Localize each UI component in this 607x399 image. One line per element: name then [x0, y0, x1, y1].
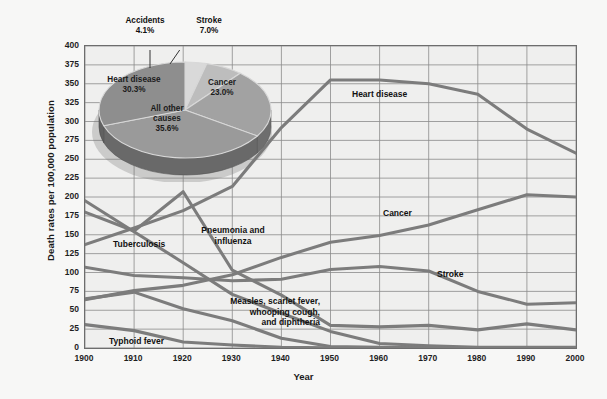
pie-callout-accidents-name: Accidents	[114, 16, 176, 26]
x-tick-1990: 1990	[504, 353, 548, 363]
series-label-cancer: Cancer	[383, 208, 412, 219]
x-tick-1910: 1910	[111, 353, 155, 363]
pie-label-heart-disease-pct: 30.3%	[88, 85, 180, 95]
y-tick-400: 400	[45, 40, 79, 50]
x-tick-1900: 1900	[62, 353, 106, 363]
y-tick-275: 275	[45, 134, 79, 144]
x-tick-1940: 1940	[258, 353, 302, 363]
y-tick-100: 100	[45, 267, 79, 277]
x-tick-1950: 1950	[308, 353, 352, 363]
pie-label-cancer-pct: 23.0%	[196, 88, 248, 98]
y-tick-375: 375	[45, 59, 79, 69]
pie-callout-accidents-pct: 4.1%	[114, 26, 176, 36]
y-tick-75: 75	[45, 285, 79, 295]
pie-chart: Accidents 4.1% Stroke 7.0% Heart disease…	[92, 50, 278, 182]
pie-callout-stroke-name: Stroke	[182, 16, 236, 26]
x-tick-1970: 1970	[406, 353, 450, 363]
x-tick-1920: 1920	[160, 353, 204, 363]
pie-label-cancer-name: Cancer	[196, 78, 248, 88]
y-tick-225: 225	[45, 172, 79, 182]
pie-label-all-other-causes-name: All other causes	[136, 104, 198, 124]
y-tick-50: 50	[45, 304, 79, 314]
x-tick-2000: 2000	[553, 353, 597, 363]
x-tick-1980: 1980	[455, 353, 499, 363]
x-tick-1930: 1930	[209, 353, 253, 363]
y-tick-150: 150	[45, 229, 79, 239]
pie-callout-stroke-pct: 7.0%	[182, 26, 236, 36]
figure-root: Death rates per 100,000 population 40037…	[0, 0, 607, 399]
y-tick-0: 0	[45, 342, 79, 352]
pie-label-all-other-causes-pct: 35.6%	[136, 124, 198, 134]
x-axis-title: Year	[0, 371, 607, 382]
y-tick-200: 200	[45, 191, 79, 201]
x-tick-1960: 1960	[357, 353, 401, 363]
series-label-typhoid-fever: Typhoid fever	[109, 336, 164, 347]
y-tick-325: 325	[45, 97, 79, 107]
y-tick-25: 25	[45, 323, 79, 333]
series-label-measles-group: Measles, scarlet fever, whooping cough, …	[145, 296, 320, 328]
y-tick-125: 125	[45, 248, 79, 258]
series-label-stroke: Stroke	[437, 269, 463, 280]
series-label-tuberculosis: Tuberculosis	[113, 239, 165, 250]
y-tick-250: 250	[45, 153, 79, 163]
y-tick-300: 300	[45, 116, 79, 126]
y-tick-175: 175	[45, 210, 79, 220]
y-tick-350: 350	[45, 78, 79, 88]
pie-label-heart-disease-name: Heart disease	[88, 75, 180, 85]
series-label-pneumonia-influenza: Pneumonia and influenza	[178, 225, 288, 246]
series-label-heart-disease: Heart disease	[352, 89, 407, 100]
